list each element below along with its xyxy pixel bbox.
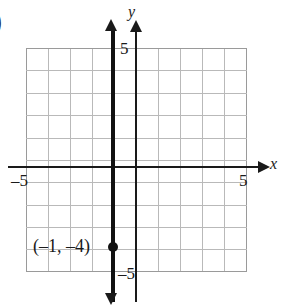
y-axis-line xyxy=(135,30,137,302)
plotted-line-arrow-down-icon xyxy=(105,293,117,305)
plotted-line-arrow-up-icon xyxy=(105,19,117,31)
plotted-point-label: (–1, –4) xyxy=(33,237,90,255)
y-axis-tick-label-negative-5: –5 xyxy=(118,265,135,282)
coordinate-plane-figure: ) (–1, –4) 5 –5 5 –5 y xyxy=(0,0,287,306)
x-axis-arrow-icon xyxy=(258,161,270,173)
plotted-point-marker xyxy=(108,242,118,252)
y-axis-tick-label-5: 5 xyxy=(120,40,129,57)
problem-number-paren: ) xyxy=(0,8,2,35)
plotted-vertical-line xyxy=(111,30,115,302)
y-axis-name-label: y xyxy=(128,4,135,20)
y-axis-arrow-icon xyxy=(130,20,142,32)
x-axis-name-label: x xyxy=(270,156,277,172)
x-axis-tick-label-negative-5: –5 xyxy=(11,172,28,189)
x-axis-tick-label-5: 5 xyxy=(239,172,248,189)
